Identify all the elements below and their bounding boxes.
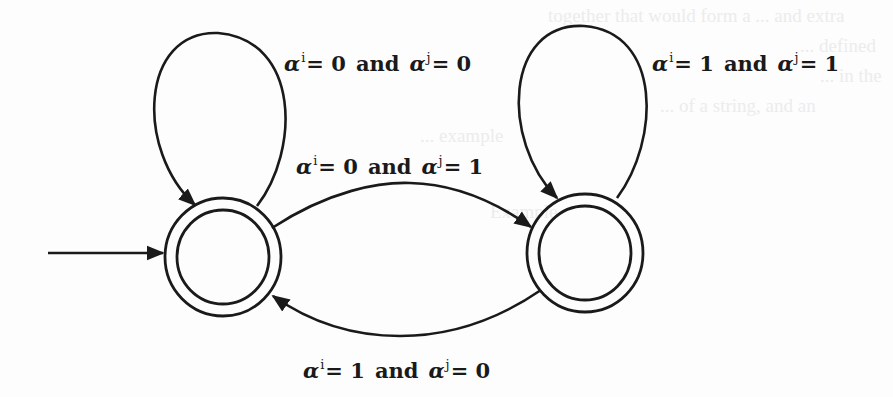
transition-loop-s1: [519, 26, 647, 198]
label-s0-to-s1: αi= 0andαj= 1: [296, 153, 483, 179]
conjunction: and: [368, 154, 412, 179]
transition-s1-to-s0: [273, 290, 541, 336]
alpha-symbol: α: [303, 358, 319, 383]
value: = 0: [451, 358, 491, 383]
transition-s0-to-s1: [272, 183, 531, 228]
label-s1-to-s0: αi= 1andαj= 0: [303, 357, 490, 383]
value: = 1: [674, 51, 714, 76]
conjunction: and: [375, 358, 419, 383]
automaton-figure: together that would form a ... and extra…: [0, 0, 893, 397]
superscript-j: j: [427, 50, 431, 65]
state-s0-accepting: [165, 198, 281, 316]
superscript-i: i: [301, 50, 305, 65]
alpha-symbol: α: [777, 51, 793, 76]
superscript-i: i: [669, 50, 673, 65]
conjunction: and: [724, 51, 768, 76]
label-loop-s0: αi= 0andαj= 0: [284, 50, 471, 76]
value: = 0: [318, 154, 358, 179]
superscript-i: i: [320, 357, 324, 372]
value: = 1: [800, 51, 840, 76]
conjunction: and: [356, 51, 400, 76]
alpha-symbol: α: [284, 51, 300, 76]
superscript-j: j: [439, 153, 443, 168]
state-s1-accepting: [527, 194, 643, 312]
value: = 1: [325, 358, 365, 383]
value: = 0: [306, 51, 346, 76]
alpha-symbol: α: [421, 154, 437, 179]
alpha-symbol: α: [652, 51, 668, 76]
transition-loop-s0: [154, 33, 285, 206]
alpha-symbol: α: [428, 358, 444, 383]
value: = 1: [444, 154, 484, 179]
alpha-symbol: α: [296, 154, 312, 179]
label-loop-s1: αi= 1andαj= 1: [652, 50, 839, 76]
superscript-i: i: [313, 153, 317, 168]
superscript-j: j: [446, 357, 450, 372]
superscript-j: j: [795, 50, 799, 65]
alpha-symbol: α: [409, 51, 425, 76]
value: = 0: [432, 51, 472, 76]
